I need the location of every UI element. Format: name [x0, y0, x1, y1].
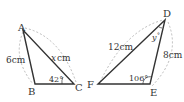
side-de-length: 8cm: [163, 50, 183, 60]
vertex-b-label: B: [28, 86, 35, 97]
side-ac-unit: cm: [57, 53, 71, 63]
angle-e-value: 106°: [129, 74, 148, 83]
angle-d-arc: [159, 27, 162, 28]
vertex-d-label: D: [163, 8, 171, 19]
vertex-a-label: A: [17, 22, 26, 33]
angle-d-unit: °: [157, 31, 160, 38]
side-ac-variable: x: [51, 53, 56, 63]
vertex-e-label: E: [150, 87, 157, 98]
vertex-f-label: F: [87, 79, 94, 90]
side-df-length: 12cm: [108, 42, 133, 52]
similar-triangles-diagram: A B C 6cm x cm 42° D E F 12cm 8cm y ° 10…: [0, 0, 184, 102]
side-ab-length: 6cm: [6, 55, 26, 65]
triangle-abc: A B C 6cm x cm 42°: [6, 22, 83, 97]
triangle-def: D E F 12cm 8cm y ° 106°: [87, 8, 183, 98]
angle-c-value: 42°: [49, 75, 63, 84]
vertex-c-label: C: [75, 82, 83, 93]
